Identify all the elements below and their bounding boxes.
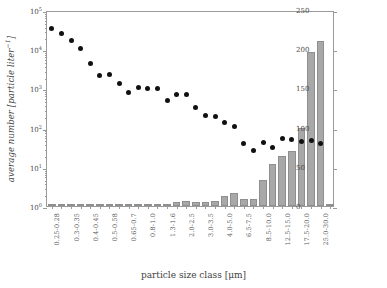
y-axis-left-minor-tick: [45, 175, 47, 176]
chart-figure: average number [particle liter−1] total …: [0, 0, 387, 288]
data-point: [117, 81, 122, 86]
data-point: [241, 141, 246, 146]
y-axis-right-tick: [333, 208, 337, 209]
y-axis-left-minor-tick: [45, 171, 47, 172]
x-axis-tick: [330, 206, 331, 209]
scatter-series-layer: [47, 12, 333, 206]
x-axis-tick: [61, 206, 62, 209]
y-axis-left-tick-label: 105: [30, 6, 42, 16]
x-axis-tick-label: 12.5-15.0: [284, 213, 292, 245]
y-axis-right-tick-label: 250: [296, 7, 309, 15]
x-axis-tick-label: 6.5-7.5: [245, 213, 253, 237]
y-axis-left-minor-tick: [45, 136, 47, 137]
x-axis-tick-label: 1.3-1.6: [169, 213, 177, 237]
y-axis-left-title-text: average number [particle liter−1]: [4, 36, 16, 182]
x-axis-tick: [321, 206, 322, 209]
plot-area: [46, 11, 334, 207]
x-axis-tick-label: 0.4-0.45: [92, 213, 100, 241]
x-axis-tick: [100, 206, 101, 209]
y-axis-left-tick: [43, 208, 47, 209]
y-axis-left-minor-tick: [45, 131, 47, 132]
data-point: [299, 139, 304, 144]
y-axis-left-minor-tick: [45, 32, 47, 33]
data-point: [59, 31, 64, 36]
x-axis-tick-label: 0.25-0.28: [53, 213, 61, 245]
x-axis-title-text: particle size class [μm]: [141, 270, 246, 280]
x-axis-tick: [301, 206, 302, 209]
y-axis-right-tick-label: 50: [296, 164, 305, 172]
x-axis-tick: [138, 206, 139, 209]
x-axis-tick: [292, 206, 293, 209]
data-point: [203, 113, 208, 118]
data-point: [165, 98, 170, 103]
data-point: [97, 73, 102, 78]
x-axis-tick-label: 25.0-30.0: [322, 213, 330, 245]
y-axis-left-minor-tick: [45, 118, 47, 119]
y-axis-left-minor-tick: [45, 39, 47, 40]
y-axis-left-minor-tick: [45, 16, 47, 17]
data-point: [193, 105, 198, 110]
x-axis-tick-label: 2.0-2.5: [188, 213, 196, 237]
data-point: [270, 145, 275, 150]
y-axis-left-minor-tick: [45, 92, 47, 93]
data-point: [318, 141, 323, 146]
data-point: [49, 26, 54, 31]
data-point: [184, 92, 189, 97]
x-axis-tick: [234, 206, 235, 209]
data-point: [126, 90, 131, 95]
x-axis-tick: [225, 206, 226, 209]
x-axis-tick: [273, 206, 274, 209]
y-axis-left-minor-tick: [45, 57, 47, 58]
data-point: [251, 148, 256, 153]
y-axis-right-tick-label: 0: [296, 203, 300, 211]
data-point: [213, 114, 218, 119]
y-axis-right-tick: [333, 169, 337, 170]
y-axis-left-minor-tick: [45, 18, 47, 19]
y-axis-right-tick: [333, 51, 337, 52]
x-axis-tick: [215, 206, 216, 209]
y-axis-left-minor-tick: [45, 79, 47, 80]
data-point: [232, 124, 237, 129]
data-point: [222, 120, 227, 125]
data-point: [145, 86, 150, 91]
y-axis-left-minor-tick: [45, 72, 47, 73]
y-axis-left-tick-label: 100: [30, 202, 42, 212]
y-axis-left-minor-tick: [45, 63, 47, 64]
x-axis-tick: [109, 206, 110, 209]
data-point: [155, 86, 160, 91]
y-axis-left-minor-tick: [45, 177, 47, 178]
x-axis-tick: [71, 206, 72, 209]
data-point: [78, 46, 83, 51]
x-axis-tick-label: 17.5-20.0: [303, 213, 311, 245]
y-axis-left-minor-tick: [45, 60, 47, 61]
x-axis-tick: [253, 206, 254, 209]
data-point: [261, 140, 266, 145]
y-axis-left-minor-tick: [45, 53, 47, 54]
y-axis-left-minor-tick: [45, 111, 47, 112]
data-point: [289, 137, 294, 142]
y-axis-left-minor-tick: [45, 150, 47, 151]
y-axis-left-minor-tick: [45, 157, 47, 158]
y-axis-left-minor-tick: [45, 189, 47, 190]
x-axis-tick-label: 0.3-0.35: [73, 213, 81, 241]
y-axis-right-tick: [333, 90, 337, 91]
y-axis-left-minor-tick: [45, 173, 47, 174]
x-axis-tick: [177, 206, 178, 209]
y-axis-left-tick-label: 104: [30, 45, 42, 55]
data-point: [107, 72, 112, 77]
y-axis-left-minor-tick: [45, 102, 47, 103]
x-axis-tick: [52, 206, 53, 209]
y-axis-right-tick: [333, 12, 337, 13]
x-axis-tick-label: 0.65-0.7: [130, 213, 138, 241]
data-point: [69, 38, 74, 43]
y-axis-left-minor-tick: [45, 67, 47, 68]
x-axis-tick: [311, 206, 312, 209]
y-axis-left-minor-tick: [45, 196, 47, 197]
y-axis-right-tick-label: 200: [296, 46, 309, 54]
data-point: [136, 85, 141, 90]
y-axis-right-tick: [333, 130, 337, 131]
x-axis-tick-label: 3.0-3.5: [207, 213, 215, 237]
x-axis-tick: [119, 206, 120, 209]
y-axis-left-title: average number [particle liter−1]: [3, 14, 17, 204]
x-axis-tick: [186, 206, 187, 209]
